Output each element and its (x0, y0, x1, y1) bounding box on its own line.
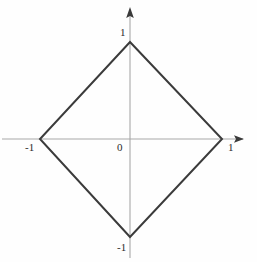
origin-label: 0 (117, 142, 123, 153)
x-axis-tick-label-positive-one: 1 (228, 142, 234, 153)
plot-canvas (0, 0, 257, 262)
unit-diamond-figure: 1 1 -1 -1 0 (0, 0, 257, 262)
y-axis-tick-label-positive-one: 1 (120, 27, 126, 38)
y-axis-tick-label-negative-one: -1 (117, 242, 126, 253)
x-axis-tick-label-negative-one: -1 (25, 142, 34, 153)
